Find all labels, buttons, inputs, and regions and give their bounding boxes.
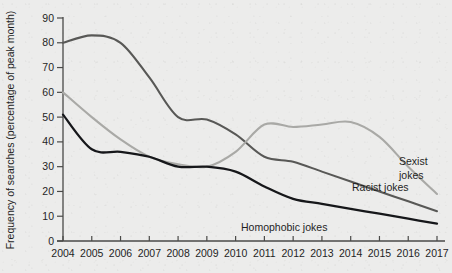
- series-line-homophobic-jokes: [63, 115, 437, 224]
- series-label-sexist-jokes: Sexist: [399, 155, 428, 167]
- x-tick-label: 2004: [51, 247, 75, 259]
- line-chart: Frequency of searches (percentage of pea…: [0, 0, 452, 273]
- x-tick-label: 2013: [310, 247, 334, 259]
- y-tick-label: 60: [42, 86, 54, 98]
- x-tick-label: 2009: [195, 247, 219, 259]
- series-label-homophobic-jokes: Homophobic jokes: [241, 221, 327, 233]
- y-tick-label: 40: [42, 135, 54, 147]
- x-axis: 2004200520062007200820092010201120122013…: [51, 236, 449, 259]
- y-tick-label: 20: [42, 185, 54, 197]
- series-labels: Racist jokesSexistjokesHomophobic jokes: [241, 155, 428, 233]
- y-tick-label: 90: [42, 12, 54, 24]
- series-label-racist-jokes: Racist jokes: [352, 181, 409, 193]
- x-tick-label: 2014: [339, 247, 363, 259]
- y-axis-title: Frequency of searches (percentage of pea…: [4, 11, 16, 250]
- x-tick-label: 2010: [224, 247, 248, 259]
- x-tick-label: 2005: [80, 247, 104, 259]
- x-tick-label: 2017: [425, 247, 449, 259]
- y-tick-label: 0: [48, 235, 54, 247]
- chart-page: Frequency of searches (percentage of pea…: [0, 0, 452, 273]
- y-axis: 0102030405060708090: [42, 12, 63, 247]
- series-label-sexist-jokes-line2: jokes: [398, 169, 424, 181]
- x-tick-label: 2012: [281, 247, 305, 259]
- y-tick-label: 10: [42, 210, 54, 222]
- y-tick-label: 80: [42, 36, 54, 48]
- series-lines: [63, 35, 437, 223]
- x-tick-label: 2008: [166, 247, 190, 259]
- x-tick-label: 2015: [368, 247, 392, 259]
- x-tick-label: 2011: [253, 247, 276, 259]
- y-tick-label: 70: [42, 61, 54, 73]
- x-tick-label: 2016: [397, 247, 421, 259]
- x-tick-label: 2006: [109, 247, 133, 259]
- y-tick-label: 30: [42, 160, 54, 172]
- y-axis-title-text: Frequency of searches (percentage of pea…: [4, 11, 16, 250]
- y-tick-label: 50: [42, 111, 54, 123]
- x-tick-label: 2007: [138, 247, 162, 259]
